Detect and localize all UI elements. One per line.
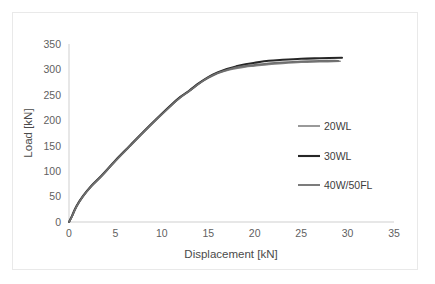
y-tick-label: 200 [43, 114, 61, 126]
series-line-40w-50fl [69, 61, 338, 222]
x-tick-label: 25 [295, 227, 307, 239]
legend-label-40w-50fl: 40W/50FL [324, 179, 373, 191]
legend-label-30wl: 30WL [324, 150, 352, 162]
series-line-30wl [69, 58, 342, 222]
y-tick-label: 0 [55, 216, 61, 228]
y-tick-label: 100 [43, 165, 61, 177]
x-tick-label: 0 [66, 227, 72, 239]
x-tick-label: 15 [202, 227, 214, 239]
x-tick-label: 5 [113, 227, 119, 239]
legend-label-20wl: 20WL [324, 120, 352, 132]
chart-legend: 20WL30WL40W/50FL [298, 120, 373, 191]
x-tick-label: 30 [342, 227, 354, 239]
chart-figure: 050100150200250300350 05101520253035 20W… [0, 0, 435, 284]
x-tick-label: 20 [249, 227, 261, 239]
x-axis-tick-labels: 05101520253035 [66, 227, 400, 239]
y-axis-tick-labels: 050100150200250300350 [43, 38, 61, 228]
x-tick-label: 10 [156, 227, 168, 239]
x-tick-label: 35 [388, 227, 400, 239]
y-tick-label: 300 [43, 63, 61, 75]
series-line-20wl [69, 61, 340, 222]
y-tick-label: 350 [43, 38, 61, 50]
chart-plot-area: 050100150200250300350 05101520253035 20W… [0, 0, 435, 284]
y-axis-title: Load [kN] [22, 108, 34, 157]
y-tick-label: 150 [43, 140, 61, 152]
y-tick-label: 250 [43, 89, 61, 101]
data-series-group [69, 58, 342, 222]
x-axis-title: Displacement [kN] [184, 248, 277, 260]
axis-lines [69, 44, 394, 222]
y-tick-label: 50 [49, 190, 61, 202]
